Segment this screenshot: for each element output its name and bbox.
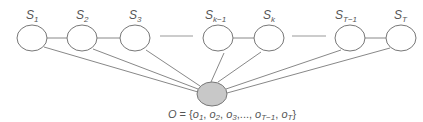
observation-label: O = {o1, o2, o3,..., oT−1, oT} <box>168 108 296 122</box>
state-node-sk-1 <box>203 25 233 51</box>
state-node-sT <box>386 25 416 51</box>
state-node-sk <box>254 25 284 51</box>
label-sk: Sk <box>263 8 276 24</box>
state-nodes <box>17 25 416 51</box>
hmm-diagram: S1 S2 S3 Sk−1 Sk ST−1 ST O = {o1, o2, o3… <box>0 0 423 122</box>
state-node-sT-1 <box>335 25 365 51</box>
label-sT: ST <box>394 8 408 24</box>
label-s3: S3 <box>129 8 142 24</box>
state-labels: S1 S2 S3 Sk−1 Sk ST−1 ST <box>26 8 408 24</box>
label-s1: S1 <box>26 8 38 24</box>
observation-node <box>197 82 227 106</box>
state-node-s3 <box>120 25 150 51</box>
state-node-s2 <box>67 25 97 51</box>
label-sk-1: Sk−1 <box>205 8 226 24</box>
label-sT-1: ST−1 <box>335 8 357 24</box>
state-node-s1 <box>17 25 47 51</box>
label-s2: S2 <box>76 8 89 24</box>
